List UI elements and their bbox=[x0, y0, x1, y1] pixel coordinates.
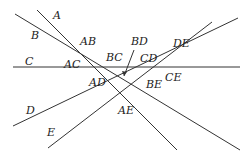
label-DE: DE bbox=[172, 37, 190, 50]
label-D: D bbox=[25, 104, 35, 117]
label-AC: AC bbox=[63, 58, 81, 71]
label-CD: CD bbox=[140, 52, 157, 65]
line-arrangement-diagram: ABCDEABACBCBDCDDEADBECEAE bbox=[0, 0, 251, 152]
label-BD: BD bbox=[130, 35, 148, 48]
label-B: B bbox=[30, 29, 39, 42]
label-AE: AE bbox=[117, 104, 134, 117]
label-CE: CE bbox=[165, 71, 181, 84]
label-C: C bbox=[25, 55, 34, 68]
label-A: A bbox=[52, 9, 61, 22]
label-AD: AD bbox=[88, 76, 106, 89]
label-BC: BC bbox=[105, 51, 123, 64]
label-BE: BE bbox=[145, 78, 162, 91]
label-AB: AB bbox=[79, 35, 96, 48]
label-E: E bbox=[46, 126, 55, 139]
